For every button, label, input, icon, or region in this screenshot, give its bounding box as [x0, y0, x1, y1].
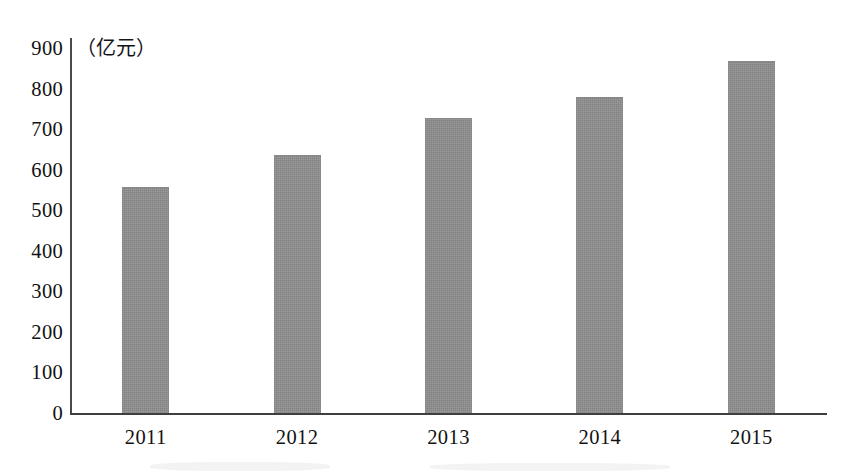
- y-axis-unit-label: （亿元）: [76, 38, 156, 58]
- y-axis-tick-label: 500: [5, 200, 63, 221]
- x-axis-tick-label-2011: 2011: [86, 427, 206, 448]
- y-axis-tick-label: 900: [5, 38, 63, 59]
- x-axis-line: [70, 413, 827, 415]
- scan-artifact: [430, 463, 670, 471]
- plot-area: （亿元） 9008007006005004003002001000 201120…: [0, 0, 845, 471]
- y-axis-tick-label: 700: [5, 119, 63, 140]
- x-axis-tick-label-2012: 2012: [237, 427, 357, 448]
- y-axis-tick-label: 600: [5, 160, 63, 181]
- y-axis-tick-label: 200: [5, 322, 63, 343]
- bar-chart-figure: （亿元） 9008007006005004003002001000 201120…: [0, 0, 845, 471]
- x-axis-tick-label-2013: 2013: [389, 427, 509, 448]
- x-axis-tick-label-2015: 2015: [691, 427, 811, 448]
- x-axis-tick-label-2014: 2014: [540, 427, 660, 448]
- y-axis-tick-label: 0: [5, 403, 63, 424]
- scan-artifact: [150, 462, 330, 471]
- bar-2011: [122, 187, 169, 413]
- bar-2014: [576, 97, 623, 413]
- y-axis-tick-label: 100: [5, 362, 63, 383]
- y-axis-tick-label: 800: [5, 79, 63, 100]
- y-axis-tick-label: 400: [5, 241, 63, 262]
- bar-2013: [425, 118, 472, 413]
- y-axis-line: [70, 38, 72, 414]
- bar-2015: [728, 61, 775, 413]
- y-axis-tick-label: 300: [5, 281, 63, 302]
- bar-2012: [274, 155, 321, 413]
